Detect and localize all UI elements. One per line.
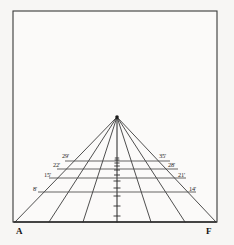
corner-label-f: F	[206, 226, 212, 236]
left-distance-label-1: 15'	[44, 171, 51, 178]
perspective-grid-diagram: 8'15'22'29' 14'21'28'35' A F	[0, 0, 234, 245]
right-distance-label-1: 21'	[178, 171, 185, 178]
right-distance-label-2: 28'	[168, 161, 175, 168]
corner-label-a: A	[16, 226, 23, 236]
right-distance-label-3: 35'	[159, 152, 166, 159]
left-distance-label-3: 29'	[62, 152, 69, 159]
figure-root: 8'15'22'29' 14'21'28'35' A F	[0, 0, 234, 245]
left-distance-label-2: 22'	[53, 161, 60, 168]
left-distance-label-0: 8'	[33, 185, 37, 192]
vanishing-point-marker	[115, 115, 119, 119]
right-distance-label-0: 14'	[189, 185, 196, 192]
